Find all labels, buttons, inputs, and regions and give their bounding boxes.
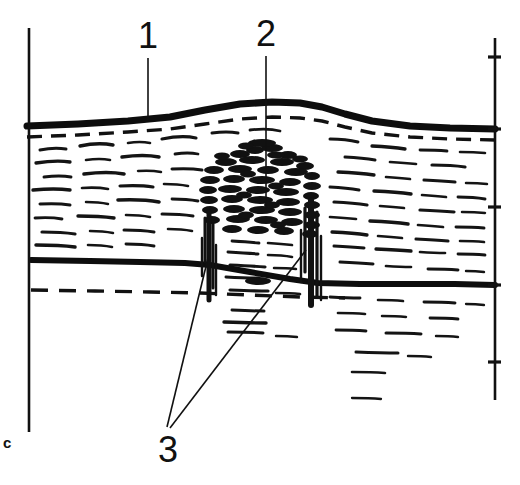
callout-label-2: 2	[256, 13, 276, 54]
ultrasound-figure-panel: 1 2 3 c	[0, 0, 520, 485]
fascia-nodule	[245, 277, 271, 285]
callout-label-3: 3	[158, 429, 178, 470]
panel-label: c	[3, 434, 11, 451]
ultrasound-schematic-canvas: 1 2 3 c	[0, 0, 520, 485]
callout-label-1: 1	[138, 15, 158, 56]
